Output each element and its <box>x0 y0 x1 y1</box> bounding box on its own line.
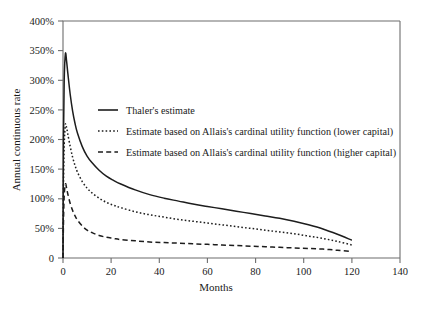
y-axis-tick-labels: 0 50% 100% 150% 200% 250% 300% 350% 400% <box>30 16 55 264</box>
y-tick-label-100: 100% <box>30 193 55 204</box>
legend-label-2: Estimate based on Allais's cardinal util… <box>126 126 393 138</box>
series-allais-higher-capital <box>63 184 352 258</box>
x-tick-label-40: 40 <box>154 266 165 277</box>
y-tick-label-200: 200% <box>30 134 55 145</box>
y-tick-label-0: 0 <box>49 253 54 264</box>
plot-frame <box>63 21 400 258</box>
y-tick-label-250: 250% <box>30 105 55 116</box>
y-tick-label-150: 150% <box>30 164 55 175</box>
x-axis-tick-labels: 0 20 40 60 80 100 120 140 <box>60 266 408 277</box>
chart-svg: 0 50% 100% 150% 200% 250% 300% 350% 400%… <box>0 0 427 313</box>
y-tick-label-50: 50% <box>35 223 55 234</box>
y-tick-label-300: 300% <box>30 75 55 86</box>
x-tick-label-0: 0 <box>60 266 65 277</box>
y-axis-ticks <box>58 21 63 258</box>
series-allais-lower-capital <box>63 124 352 258</box>
frame-left-top <box>63 21 400 258</box>
x-tick-label-80: 80 <box>250 266 261 277</box>
x-tick-label-100: 100 <box>296 266 312 277</box>
x-tick-label-60: 60 <box>202 266 213 277</box>
y-axis-title: Annual continuous rate <box>10 89 22 192</box>
x-tick-label-20: 20 <box>106 266 117 277</box>
y-tick-label-400: 400% <box>30 16 55 27</box>
chart-legend: Thaler's estimate Estimate based on Alla… <box>98 105 396 159</box>
x-tick-label-120: 120 <box>344 266 360 277</box>
x-axis-title: Months <box>199 281 233 293</box>
chart-figure: 0 50% 100% 150% 200% 250% 300% 350% 400%… <box>0 0 427 313</box>
legend-label-3: Estimate based on Allais's cardinal util… <box>126 147 396 159</box>
x-tick-label-140: 140 <box>392 266 408 277</box>
legend-label-1: Thaler's estimate <box>126 105 195 116</box>
y-tick-label-350: 350% <box>30 45 55 56</box>
x-axis-ticks <box>63 258 400 263</box>
